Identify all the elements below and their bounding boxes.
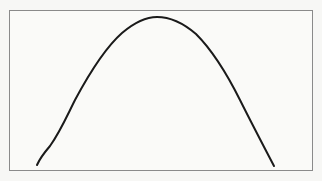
- frame: [10, 11, 313, 171]
- bell-curve-figure: [0, 0, 322, 181]
